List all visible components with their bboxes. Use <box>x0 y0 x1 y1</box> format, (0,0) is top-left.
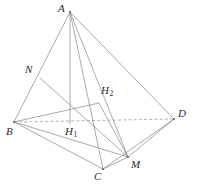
vertex-dot-a <box>69 11 71 13</box>
vertex-label-n: N <box>25 64 32 75</box>
vertex-dot-b <box>13 121 15 123</box>
dashed-edge-group <box>14 119 174 122</box>
vertex-label-text: B <box>6 125 13 137</box>
edge-A-D <box>70 12 174 119</box>
edge-N-M <box>40 78 128 157</box>
vertex-label-d: D <box>178 108 186 119</box>
vertex-dot-c <box>102 168 104 170</box>
vertex-label-text: C <box>94 170 101 182</box>
vertex-label-subscript: 1 <box>73 130 77 139</box>
vertex-label-text: H <box>101 84 109 96</box>
vertex-label-h1: H1 <box>65 126 77 138</box>
vertex-label-c: C <box>94 171 101 182</box>
geometry-canvas <box>0 0 197 189</box>
geometry-figure: ABCDMNH1H2 <box>0 0 197 189</box>
vertex-label-m: M <box>131 159 140 170</box>
edge-A-M <box>70 12 128 157</box>
edge-B-D <box>14 119 174 122</box>
solid-edge-group <box>14 12 174 169</box>
vertex-label-subscript: 2 <box>109 89 113 98</box>
vertex-label-text: D <box>178 107 186 119</box>
vertex-label-text: A <box>58 2 65 14</box>
vertex-label-text: M <box>131 158 140 170</box>
vertex-label-text: H <box>65 125 73 137</box>
edge-M-D <box>128 119 174 157</box>
edge-A-B <box>14 12 70 122</box>
edge-H2-M <box>99 103 128 157</box>
vertex-label-b: B <box>6 126 13 137</box>
edge-A-C <box>70 12 103 169</box>
vertex-label-text: N <box>25 63 32 75</box>
vertex-label-h2: H2 <box>101 85 113 97</box>
vertex-label-a: A <box>58 3 65 14</box>
vertex-dot-d <box>173 118 175 120</box>
edge-C-M <box>103 157 128 169</box>
vertex-dot-m <box>127 156 129 158</box>
